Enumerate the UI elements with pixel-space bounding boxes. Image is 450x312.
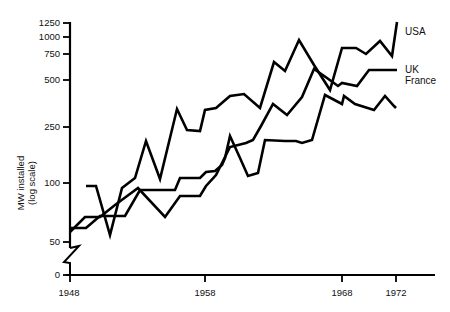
series-line-uk [70,95,396,228]
y-tick-label: 500 [44,74,60,85]
y-tick-label: 1250 [39,17,60,28]
series-line-usa [70,69,397,232]
y-axis-sublabel: (log scale) [26,161,37,205]
x-tick-label: 1972 [385,287,406,298]
y-tick-label: 750 [44,48,60,59]
x-tick-label: 1958 [194,287,215,298]
line-chart: 1250 1000 750 500 250 100 50 0 1948 1958… [0,0,450,312]
x-tick-label: 1968 [331,287,352,298]
series-label-usa: USA [405,26,426,37]
y-axis-label: MW installed [15,156,26,210]
y-axis-break [64,246,79,276]
y-tick-label: 50 [49,236,60,247]
y-tick-label: 1000 [39,31,60,42]
series-label-france: France [405,75,437,86]
x-tick-label: 1948 [58,287,79,298]
y-tick-label: 250 [44,121,60,132]
y-tick-label: 0 [55,269,60,280]
series-label-uk: UK [405,64,419,75]
y-tick-label: 100 [44,177,60,188]
